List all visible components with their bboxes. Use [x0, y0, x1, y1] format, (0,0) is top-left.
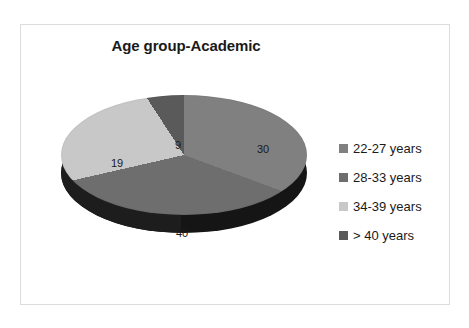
legend-item-22-27-years[interactable]: 22-27 years — [339, 134, 451, 163]
legend-square-icon — [339, 231, 348, 240]
screenshot-canvas: Age group-Academic 30 40 19 9 22-27 year… — [0, 0, 469, 328]
data-label-34-39-years: 19 — [111, 157, 123, 169]
legend-label: 34-39 years — [353, 200, 422, 213]
data-label-22-27-years: 30 — [257, 143, 269, 155]
legend-item-34-39-years[interactable]: 34-39 years — [339, 192, 451, 221]
legend-label: > 40 years — [353, 229, 414, 242]
legend-label: 28-33 years — [353, 171, 422, 184]
data-label-28-33-years: 40 — [176, 227, 188, 239]
pie-3d-top-face — [61, 95, 307, 215]
legend-item-over-40-years[interactable]: > 40 years — [339, 221, 451, 250]
data-label-over-40-years: 9 — [175, 139, 181, 151]
legend-square-icon — [339, 173, 348, 182]
pie-chart-3d: 30 40 19 9 — [61, 95, 327, 260]
legend-square-icon — [339, 144, 348, 153]
pie-slice-over-40-years[interactable] — [61, 95, 307, 215]
legend-item-28-33-years[interactable]: 28-33 years — [339, 163, 451, 192]
legend-label: 22-27 years — [353, 142, 422, 155]
chart-legend: 22-27 years 28-33 years 34-39 years > 40… — [339, 134, 451, 250]
chart-title: Age group-Academic — [21, 37, 351, 54]
chart-frame: Age group-Academic 30 40 19 9 22-27 year… — [20, 24, 450, 305]
legend-square-icon — [339, 202, 348, 211]
